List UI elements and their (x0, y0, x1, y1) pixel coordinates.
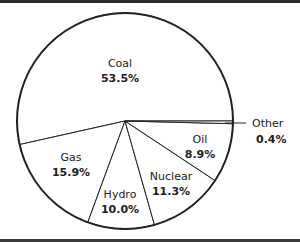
label-other-value: 0.4% (256, 133, 287, 146)
label-hydro-value: 10.0% (101, 203, 139, 216)
label-nuclear-name: Nuclear (150, 170, 193, 183)
pie-chart: Coal 53.5% Gas 15.9% Hydro 10.0% Nuclear… (0, 0, 300, 242)
label-coal-name: Coal (108, 57, 132, 70)
label-other-name: Other (252, 117, 284, 130)
label-nuclear-value: 11.3% (152, 185, 190, 198)
label-gas-value: 15.9% (52, 166, 90, 179)
label-oil-name: Oil (193, 133, 208, 146)
label-coal-value: 53.5% (101, 72, 139, 85)
label-gas-name: Gas (61, 151, 82, 164)
label-hydro-name: Hydro (104, 188, 137, 201)
label-oil-value: 8.9% (185, 148, 216, 161)
label-other: Other 0.4% (252, 117, 287, 146)
